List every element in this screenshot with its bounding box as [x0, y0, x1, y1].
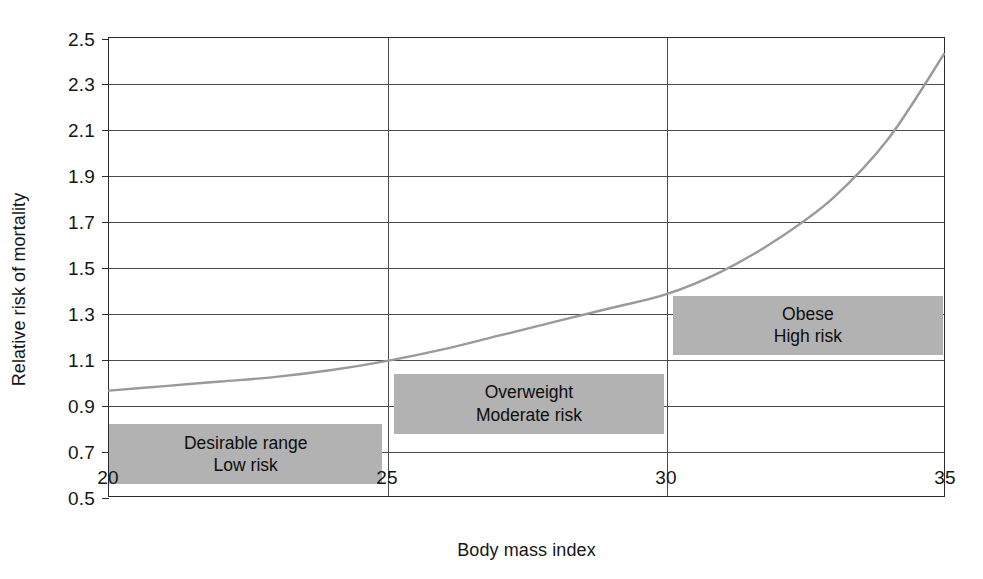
y-tick-mark: 0.7 — [102, 452, 109, 453]
x-tick-label: 35 — [934, 467, 956, 489]
y-tick-label: 1.3 — [68, 304, 95, 326]
y-tick-label: 1.5 — [68, 258, 95, 280]
y-tick-mark: 2.3 — [102, 84, 109, 85]
x-tick-label: 30 — [655, 467, 677, 489]
y-tick-label: 2.3 — [68, 74, 95, 96]
risk-curve — [109, 38, 944, 496]
x-tick-label: 20 — [97, 467, 119, 489]
y-tick-mark: 1.7 — [102, 222, 109, 223]
y-tick-label: 2.1 — [68, 120, 95, 142]
y-tick-label: 0.7 — [68, 442, 95, 464]
y-tick-mark: 1.3 — [102, 314, 109, 315]
bmi-mortality-chart: Relative risk of mortality 0.50.70.91.11… — [0, 0, 983, 579]
y-tick-mark: 1.1 — [102, 360, 109, 361]
y-tick-mark: 1.9 — [102, 176, 109, 177]
y-tick-label: 1.7 — [68, 212, 95, 234]
y-tick-label: 1.1 — [68, 350, 95, 372]
risk-curve-path — [109, 54, 944, 391]
y-tick-mark: 0.9 — [102, 406, 109, 407]
y-tick-mark: 2.5 — [102, 39, 109, 40]
y-tick-mark: 1.5 — [102, 268, 109, 269]
y-axis-title: Relative risk of mortality — [0, 0, 38, 579]
y-tick-label: 2.5 — [68, 29, 95, 51]
plot-area: 0.50.70.91.11.31.51.71.92.12.32.5 Desira… — [108, 37, 945, 497]
y-tick-label: 0.9 — [68, 396, 95, 418]
y-tick-label: 1.9 — [68, 166, 95, 188]
y-tick-label: 0.5 — [68, 488, 95, 510]
x-axis-title: Body mass index — [108, 540, 945, 561]
y-tick-mark: 2.1 — [102, 130, 109, 131]
x-tick-label: 25 — [376, 467, 398, 489]
y-tick-mark: 0.5 — [102, 498, 109, 499]
